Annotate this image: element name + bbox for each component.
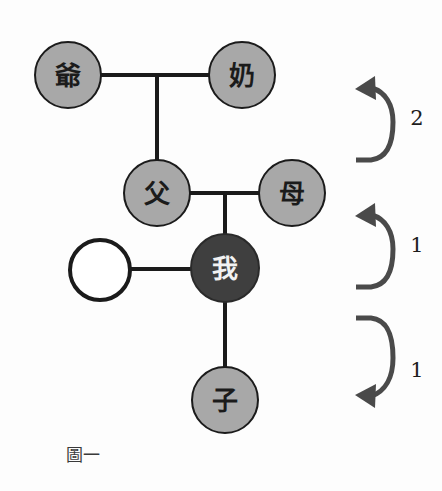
node-mother[interactable]: 母 <box>259 160 325 226</box>
link-layer <box>101 75 259 367</box>
generation-arrow-down-one-curve <box>356 318 393 396</box>
node-grandmother-label: 奶 <box>229 61 255 91</box>
generation-number-up-one: 1 <box>410 233 423 257</box>
node-mother-label: 母 <box>279 179 305 209</box>
node-child-label: 子 <box>212 386 238 416</box>
node-child[interactable]: 子 <box>192 367 258 433</box>
node-self-label: 我 <box>212 254 238 284</box>
generation-arrow-up-two <box>355 76 393 160</box>
kinship-diagram: 爺 奶 父 母 我 <box>0 0 442 491</box>
node-father-label: 父 <box>144 179 171 209</box>
node-layer: 爺 奶 父 母 我 <box>35 42 325 433</box>
family-tree-figure: 爺 奶 父 母 我 <box>0 0 442 491</box>
node-spouse[interactable] <box>70 240 130 300</box>
generation-number-layer: 2 1 1 <box>410 106 423 382</box>
node-self[interactable]: 我 <box>191 234 259 302</box>
generation-arrow-up-one <box>355 203 393 287</box>
node-father[interactable]: 父 <box>124 160 190 226</box>
node-spouse-circle <box>70 240 130 300</box>
generation-arrow-up-two-head <box>355 76 376 100</box>
generation-arrow-layer <box>355 76 393 408</box>
node-grandmother[interactable]: 奶 <box>209 42 275 108</box>
generation-arrow-down-one <box>355 318 393 408</box>
node-grandfather-label: 爺 <box>54 61 82 91</box>
generation-arrow-down-one-head <box>355 384 376 408</box>
figure-caption: 圖一 <box>66 445 100 465</box>
node-grandfather[interactable]: 爺 <box>35 42 101 108</box>
generation-arrow-up-one-head <box>355 203 376 227</box>
generation-number-down-one: 1 <box>410 358 423 382</box>
generation-number-up-two: 2 <box>410 106 423 130</box>
